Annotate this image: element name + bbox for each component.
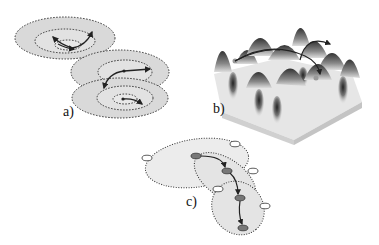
panel-b-label: b): [213, 101, 225, 117]
basin-bottom: [72, 78, 168, 118]
panel-b-landscape: [214, 28, 362, 145]
panel-c-graph: [142, 132, 275, 245]
panel-c-label: c): [186, 194, 197, 210]
panel-a-basins: [15, 17, 169, 118]
panel-a-label: a): [63, 104, 74, 120]
